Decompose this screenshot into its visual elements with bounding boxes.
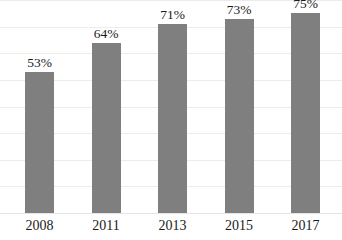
bar-value-label: 75% bbox=[293, 0, 318, 11]
category-axis: 20082011201320152017 bbox=[0, 213, 342, 240]
bar-group[interactable]: 71% bbox=[158, 0, 187, 213]
category-label: 2015 bbox=[206, 217, 273, 235]
bar-group[interactable]: 64% bbox=[92, 0, 121, 213]
bar[interactable] bbox=[225, 19, 254, 213]
category-label: 2011 bbox=[73, 217, 140, 235]
bar-group[interactable]: 73% bbox=[225, 0, 254, 213]
bar-value-label: 53% bbox=[27, 55, 52, 70]
plot-area: 53%64%71%73%75% bbox=[0, 0, 342, 213]
bar-chart: 53%64%71%73%75% 20082011201320152017 bbox=[0, 0, 342, 240]
bar-value-label: 64% bbox=[94, 26, 119, 41]
category-label: 2008 bbox=[6, 217, 73, 235]
category-label: 2013 bbox=[139, 217, 206, 235]
bar-value-label: 71% bbox=[160, 7, 185, 22]
bar[interactable] bbox=[158, 24, 187, 213]
bar[interactable] bbox=[25, 72, 54, 213]
bar[interactable] bbox=[92, 43, 121, 213]
bar-group[interactable]: 53% bbox=[25, 0, 54, 213]
bar[interactable] bbox=[291, 13, 320, 213]
bar-value-label: 73% bbox=[227, 2, 252, 17]
category-label: 2017 bbox=[272, 217, 339, 235]
bar-group[interactable]: 75% bbox=[291, 0, 320, 213]
